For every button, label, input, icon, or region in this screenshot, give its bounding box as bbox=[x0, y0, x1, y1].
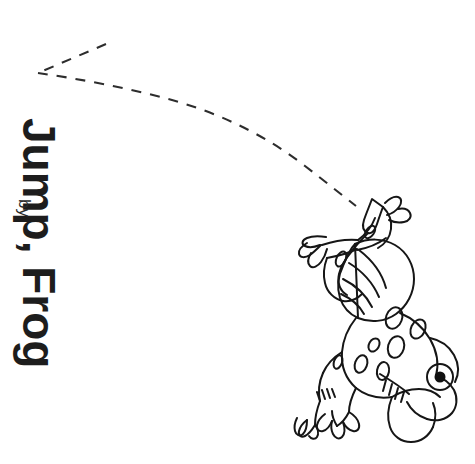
byline-rotator: by bbox=[16, 199, 33, 217]
byline-label: by bbox=[16, 199, 33, 217]
title-rotator: Jump, Frog bbox=[16, 118, 62, 368]
book-cover-page: Jump, Frog by bbox=[0, 0, 475, 464]
page-title: Jump, Frog bbox=[16, 118, 62, 368]
frog-pupil bbox=[435, 372, 446, 383]
cover-illustration bbox=[0, 0, 475, 464]
